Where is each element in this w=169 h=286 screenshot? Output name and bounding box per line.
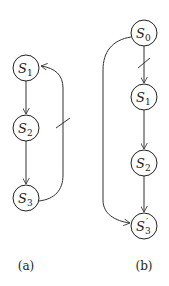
node-b-s2-sub: 2: [145, 163, 151, 173]
node-a-s1: S1: [13, 55, 39, 81]
node-a-s2-sub: 2: [27, 128, 33, 138]
node-a-s3-sub: 3: [27, 198, 33, 208]
node-b-s0-sub: 0: [145, 33, 151, 43]
node-a-s1-sub: 1: [27, 68, 33, 78]
node-b-s2: S2: [131, 150, 157, 176]
node-b-s0-base: S: [136, 26, 145, 41]
caption-b: (b): [135, 259, 152, 273]
node-b-s1-sub: 1: [145, 97, 151, 107]
edge-b-s0-s3prime-bypass: [103, 37, 131, 223]
diagram-a: S1 S2 S3 (a): [13, 55, 70, 273]
node-a-s2: S2: [13, 115, 39, 141]
caption-a: (a): [18, 259, 35, 273]
node-b-s1: S1: [131, 84, 157, 110]
state-diagrams: S1 S2 S3 (a) S0 S1 S2: [0, 0, 169, 286]
node-a-s3: S3: [13, 185, 39, 211]
node-b-s3prime-sub: 3: [145, 226, 151, 236]
node-b-s3prime: S3 ′: [131, 213, 157, 239]
node-b-s2-base: S: [136, 156, 145, 171]
diagram-b: S0 S1 S2 S3 ′ (b): [103, 20, 157, 273]
node-b-s3prime-base: S: [136, 219, 145, 234]
edge-a-s3-s1-back: [39, 66, 63, 201]
node-b-s0: S0: [131, 20, 157, 46]
node-b-s1-base: S: [136, 90, 145, 105]
node-b-s3prime-prime: ′: [146, 217, 148, 227]
node-a-s1-base: S: [18, 61, 27, 76]
node-a-s3-base: S: [18, 191, 27, 206]
node-a-s2-base: S: [18, 121, 27, 136]
